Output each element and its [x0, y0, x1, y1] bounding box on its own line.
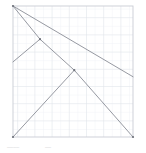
origin-dot [73, 69, 75, 71]
caption-bar: ———— —— [0, 143, 146, 153]
figure-container: ———— —— [0, 0, 146, 153]
caption-right-text: —— [45, 145, 51, 149]
vertex-a-dot [12, 5, 14, 7]
plot-canvas [0, 0, 146, 143]
caption-left-text: ———— [7, 145, 19, 149]
corner-bottom-left-dot [12, 136, 14, 138]
corner-bottom-right-dot [132, 136, 134, 138]
plot-figure [0, 0, 146, 143]
vertex-b-dot [39, 38, 41, 40]
